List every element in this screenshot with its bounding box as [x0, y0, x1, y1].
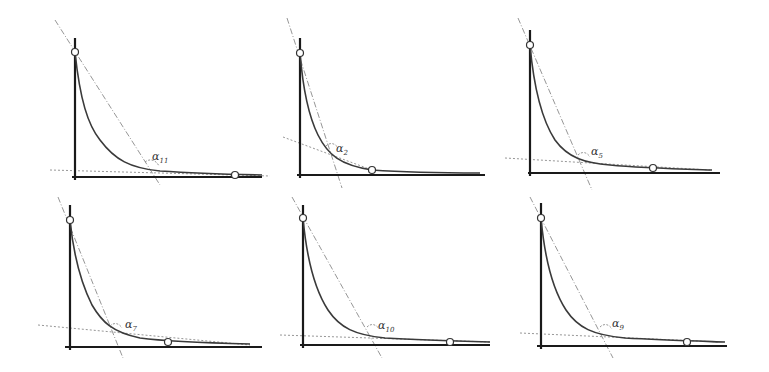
- end-point-marker: [232, 172, 239, 179]
- angle-subscript: 7: [132, 325, 137, 333]
- start-point-marker: [538, 215, 545, 222]
- panel-p2: α2: [283, 18, 485, 188]
- end-point-marker: [447, 339, 454, 346]
- panel-p5: α10: [280, 197, 490, 358]
- panel-p3: α5: [505, 18, 720, 190]
- end-point-marker: [165, 339, 172, 346]
- angle-label: α5: [591, 145, 603, 160]
- end-point-marker: [650, 165, 657, 172]
- angle-label: α9: [612, 317, 624, 332]
- end-point-marker: [369, 167, 376, 174]
- decay-curve: [303, 218, 490, 342]
- angle-arc: [578, 153, 590, 157]
- start-point-marker: [527, 42, 534, 49]
- angle-label: α10: [378, 319, 395, 334]
- start-point-marker: [67, 217, 74, 224]
- steep-tangent-line: [287, 18, 342, 188]
- end-point-marker: [684, 339, 691, 346]
- decay-curve: [541, 218, 725, 342]
- panel-p6: α9: [520, 197, 727, 358]
- shallow-tangent-line: [283, 137, 372, 170]
- panel-p4: α7: [38, 197, 262, 358]
- angle-subscript: 5: [598, 152, 603, 160]
- decay-curve: [300, 53, 480, 173]
- angle-arc: [600, 325, 612, 329]
- angle-label: α2: [336, 142, 348, 157]
- angle-subscript: 11: [159, 157, 168, 165]
- figure-canvas: α11α2α5α7α10α9: [0, 0, 769, 372]
- angle-subscript: 2: [342, 149, 348, 157]
- decay-curve: [75, 52, 262, 175]
- start-point-marker: [297, 50, 304, 57]
- panel-p1: α11: [50, 20, 270, 185]
- decay-curve: [70, 220, 250, 344]
- decay-curve: [530, 45, 712, 170]
- start-point-marker: [72, 49, 79, 56]
- angle-label: α7: [125, 318, 137, 333]
- angle-subscript: 9: [619, 324, 624, 332]
- steep-tangent-line: [55, 20, 160, 185]
- start-point-marker: [300, 215, 307, 222]
- angle-label: α11: [152, 150, 168, 165]
- angle-subscript: 10: [385, 326, 394, 334]
